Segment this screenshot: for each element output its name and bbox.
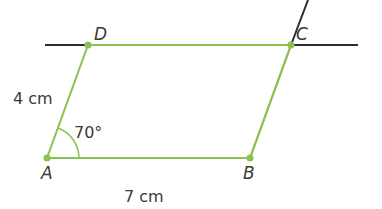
label-D: D xyxy=(94,24,107,44)
vertex-A xyxy=(44,155,51,162)
vertex-D xyxy=(85,42,92,49)
label-side-AD: 4 cm xyxy=(13,89,53,108)
label-C: C xyxy=(296,24,308,44)
parallelogram-diagram: D C A B 4 cm 7 cm 70° xyxy=(0,0,382,209)
label-B: B xyxy=(243,163,255,183)
vertex-B xyxy=(247,155,254,162)
label-A: A xyxy=(40,163,53,183)
label-side-AB: 7 cm xyxy=(124,187,164,206)
vertex-C xyxy=(288,42,295,49)
label-angle-A: 70° xyxy=(74,123,102,142)
side-BC-extension xyxy=(250,45,291,158)
